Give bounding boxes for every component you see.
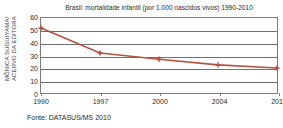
y-axis-tick-label: 30 (30, 53, 38, 61)
source-note: Fonte: DATASUS/MS 2010 (27, 113, 111, 122)
y-axis-tick-label: 10 (30, 78, 38, 86)
plot-area: 0102030405060 19901997200020042010 (40, 17, 278, 94)
chart-title: Brasil: mortalidade infantil (por 1.000 … (36, 3, 282, 12)
x-axis-tick-label: 2000 (152, 98, 168, 106)
data-point-marker (97, 50, 103, 56)
x-axis-tick-mark (220, 93, 221, 96)
x-axis-tick-mark (41, 93, 42, 96)
y-axis-tick-label: 60 (30, 14, 38, 22)
data-point-marker (274, 65, 280, 71)
series-line-mortalidade-infantil (41, 18, 277, 93)
image-credit-line-1: MÔNICA SUGUIYAMA/ (4, 17, 11, 81)
data-point-marker (215, 62, 221, 68)
data-point-marker (156, 56, 162, 62)
chart-figure: MÔNICA SUGUIYAMA/ ACERVO DA EDITORA Bras… (0, 0, 283, 128)
x-axis-tick-mark (160, 93, 161, 96)
image-credit: MÔNICA SUGUIYAMA/ ACERVO DA EDITORA (0, 0, 22, 81)
y-axis-tick-label: 20 (30, 65, 38, 73)
x-axis-tick-mark (101, 93, 102, 96)
y-axis-tick-label: 50 (30, 27, 38, 35)
x-axis-tick-label: 2004 (212, 98, 228, 106)
x-axis-tick-mark (279, 93, 280, 96)
x-axis-tick-label: 2010 (271, 98, 283, 106)
x-axis-tick-label: 1990 (33, 98, 49, 106)
y-axis-tick-label: 40 (30, 40, 38, 48)
x-axis-tick-label: 1997 (93, 98, 109, 106)
image-credit-line-2: ACERVO DA EDITORA (11, 16, 18, 81)
data-point-marker (38, 25, 44, 31)
